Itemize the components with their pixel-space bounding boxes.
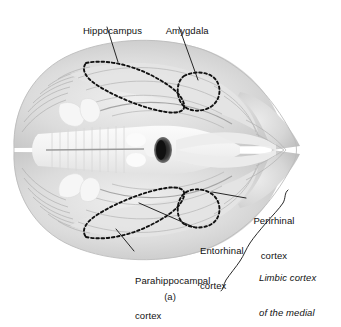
- label-limbic-line2: of the medial: [259, 307, 341, 319]
- label-limbic-line1: Limbic cortex: [259, 272, 341, 284]
- label-parahippocampal-line2: cortex: [135, 310, 231, 322]
- label-amygdala-text: Amygdala: [166, 25, 209, 36]
- label-amygdala: Amygdala: [152, 13, 212, 48]
- figure-caption: (a): [140, 291, 200, 302]
- label-parahippocampal-cortex: Parahippocampal cortex: [135, 252, 231, 327]
- label-parahippocampal-line1: Parahippocampal: [135, 275, 231, 287]
- label-hippocampus-text: Hippocampus: [83, 25, 142, 36]
- anatomical-figure: Hippocampus Amygdala Perirhinal cortex E…: [0, 0, 341, 327]
- label-limbic-cortex-brace: Limbic cortex of the medial temporal lob…: [259, 248, 341, 327]
- label-hippocampus: Hippocampus: [70, 13, 144, 48]
